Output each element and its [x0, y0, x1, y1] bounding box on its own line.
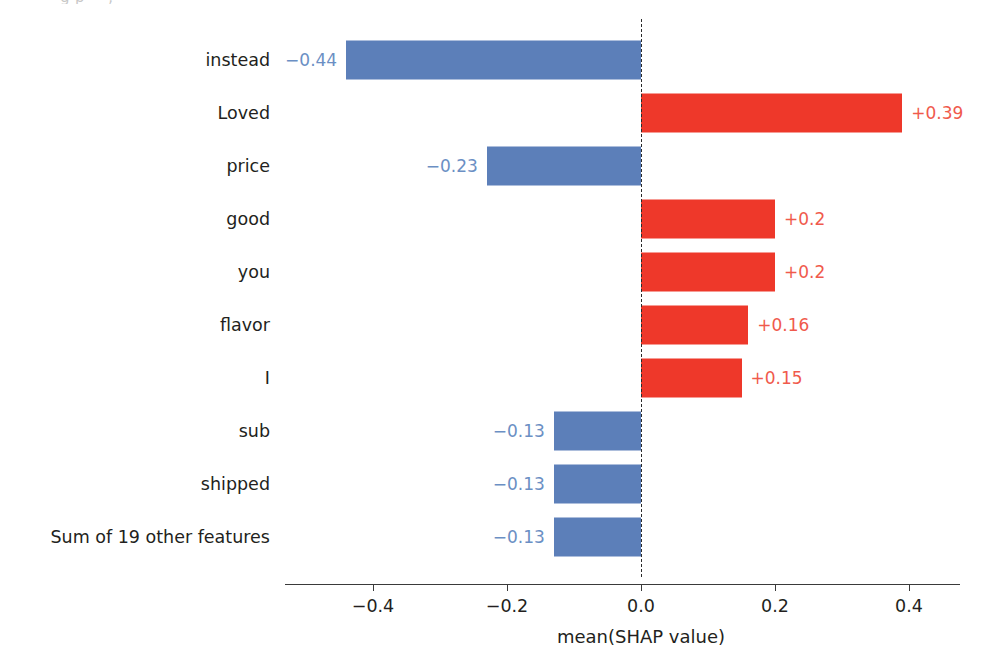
bar-row: I+0.15 [0, 351, 984, 404]
bar-category-label: Loved [218, 103, 270, 123]
bar-row: flavor+0.16 [0, 298, 984, 351]
x-axis-tick-label: 0.0 [627, 596, 655, 616]
x-axis-tick [507, 584, 508, 591]
x-axis-tick [909, 584, 910, 591]
bar-category-label: price [226, 156, 270, 176]
bar-value-label: −0.13 [493, 527, 545, 547]
bar-value-label: +0.16 [757, 315, 809, 335]
bar-row: Sum of 19 other features−0.13 [0, 510, 984, 563]
bar-value-label: −0.23 [426, 156, 478, 176]
bar-negative [554, 411, 641, 450]
x-axis-tick-label: 0.4 [895, 596, 923, 616]
bar-negative [487, 146, 641, 185]
shap-bar-chart-figure: g p = , instead−0.44Loved+0.39price−0.23… [0, 0, 984, 662]
x-axis-tick-label: −0.4 [352, 596, 395, 616]
x-axis-line [285, 584, 960, 585]
bar-negative [554, 464, 641, 503]
bar-category-label: Sum of 19 other features [50, 527, 270, 547]
bar-value-label: −0.13 [493, 474, 545, 494]
bar-row: good+0.2 [0, 192, 984, 245]
bar-row: you+0.2 [0, 245, 984, 298]
bar-value-label: +0.2 [784, 209, 825, 229]
bar-category-label: flavor [220, 315, 270, 335]
bar-category-label: shipped [201, 474, 270, 494]
bar-value-label: −0.44 [285, 50, 337, 70]
x-axis-tick-label: 0.2 [761, 596, 789, 616]
bar-positive [641, 93, 902, 132]
bar-value-label: +0.2 [784, 262, 825, 282]
bar-positive [641, 252, 775, 291]
bar-positive [641, 358, 742, 397]
bar-positive [641, 199, 775, 238]
bar-value-label: −0.13 [493, 421, 545, 441]
bar-row: instead−0.44 [0, 33, 984, 86]
bar-category-label: you [238, 262, 270, 282]
bar-value-label: +0.15 [751, 368, 803, 388]
bar-row: price−0.23 [0, 139, 984, 192]
x-axis-tick [641, 584, 642, 591]
bar-row: shipped−0.13 [0, 457, 984, 510]
bar-row: Loved+0.39 [0, 86, 984, 139]
x-axis-tick [775, 584, 776, 591]
x-axis-tick [373, 584, 374, 591]
bar-negative [554, 517, 641, 556]
bar-value-label: +0.39 [911, 103, 963, 123]
bar-negative [346, 40, 641, 79]
bar-positive [641, 305, 748, 344]
bar-category-label: sub [239, 421, 270, 441]
x-axis-tick-label: −0.2 [486, 596, 529, 616]
plot-area: instead−0.44Loved+0.39price−0.23good+0.2… [0, 0, 984, 662]
bar-row: sub−0.13 [0, 404, 984, 457]
x-axis-title: mean(SHAP value) [557, 626, 725, 647]
bar-category-label: good [226, 209, 270, 229]
bar-category-label: I [265, 368, 270, 388]
zero-reference-line [641, 19, 642, 577]
bar-category-label: instead [205, 50, 270, 70]
